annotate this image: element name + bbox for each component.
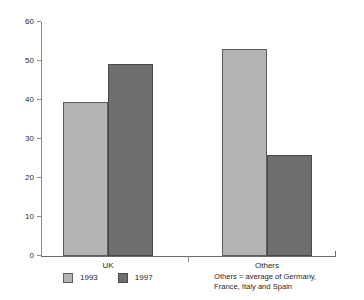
bar-others-1993 <box>222 49 267 256</box>
legend-item-1993: 1993 <box>63 273 98 283</box>
footnote: Others = average of Germany, France, Ita… <box>214 272 354 292</box>
bar-others-1997 <box>267 155 312 256</box>
bar-uk-1993 <box>63 102 108 256</box>
y-axis-tick-label: 0 <box>30 250 34 261</box>
legend-label-1993: 1993 <box>80 273 98 283</box>
legend-swatch-1993 <box>63 273 73 283</box>
legend-swatch-1997 <box>118 273 128 283</box>
y-axis-tick-label: 40 <box>25 94 34 105</box>
legend-item-1997: 1997 <box>118 273 153 283</box>
legend: 19931997 <box>63 273 173 283</box>
bar-uk-1997 <box>108 64 153 256</box>
category-separator-tick <box>188 256 189 262</box>
footnote-line-1: Others = average of Germany, <box>214 272 354 282</box>
legend-label-1997: 1997 <box>135 273 153 283</box>
plot-area <box>41 22 335 256</box>
x-axis-end-tick <box>335 251 336 257</box>
y-axis-tick-label: 50 <box>25 55 34 66</box>
y-axis-tick-label: 10 <box>25 211 34 222</box>
y-axis-tick-label: 20 <box>25 172 34 183</box>
y-axis-tick-label: 30 <box>25 133 34 144</box>
x-axis-label-uk: UK <box>43 260 173 271</box>
y-axis-tick-label: 60 <box>25 16 34 27</box>
footnote-line-2: France, Italy and Spain <box>214 282 354 292</box>
x-axis-label-others: Others <box>212 260 322 271</box>
bar-chart: 0102030405060 UK Others Others = average… <box>0 0 364 300</box>
